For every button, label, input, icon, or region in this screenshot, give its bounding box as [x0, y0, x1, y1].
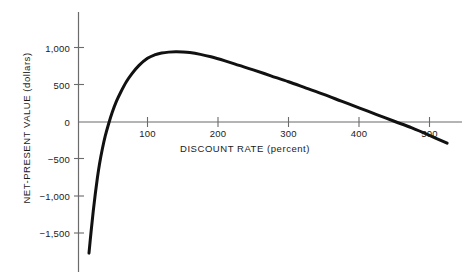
x-tick-label-100: 100 — [139, 128, 155, 139]
y-tick-label-neg1500: −1,500 — [20, 228, 70, 239]
x-tick-label-200: 200 — [210, 128, 226, 139]
x-axis-title: DISCOUNT RATE (percent) — [180, 143, 310, 154]
x-tick-label-500: 500 — [421, 128, 437, 139]
y-tick-label-1000: 1,000 — [20, 42, 70, 53]
x-tick-label-300: 300 — [280, 128, 296, 139]
chart-figure: 1,000 500 0 −500 −1,000 −1,500 100 200 3… — [0, 0, 469, 280]
plot-area — [0, 0, 469, 280]
x-tick-label-400: 400 — [351, 128, 367, 139]
y-axis-title: NET-PRESENT VALUE (dollars) — [21, 52, 32, 203]
